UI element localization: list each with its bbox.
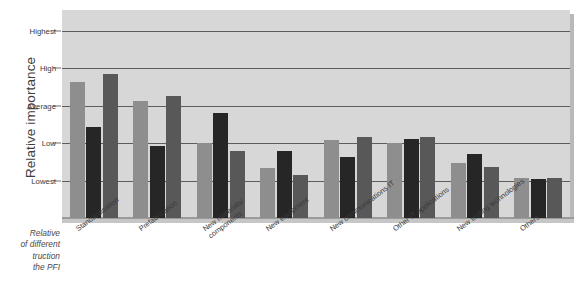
- y-tick-label: Lowest: [10, 176, 56, 185]
- bar-layer: [62, 10, 570, 218]
- bar: [86, 127, 101, 218]
- bar: [197, 143, 212, 218]
- figure-caption: Relative of different truction the PFI: [0, 228, 60, 273]
- bar: [213, 113, 228, 218]
- caption-line: truction: [0, 251, 60, 262]
- y-tick-label: Average: [10, 101, 56, 110]
- bar: [547, 178, 562, 218]
- bar: [324, 140, 339, 218]
- bar: [451, 163, 466, 218]
- y-tick-label: High: [10, 64, 56, 73]
- chart-figure: Relative importance Relative of differen…: [0, 0, 580, 294]
- bar: [70, 82, 85, 218]
- y-tick-label: Highest: [10, 26, 56, 35]
- bar: [260, 168, 275, 218]
- bar: [531, 179, 546, 218]
- caption-line: of different: [0, 239, 60, 250]
- y-tick-label: Low: [10, 139, 56, 148]
- bar: [133, 101, 148, 218]
- caption-line: the PFI: [0, 262, 60, 273]
- caption-line: Relative: [0, 228, 60, 239]
